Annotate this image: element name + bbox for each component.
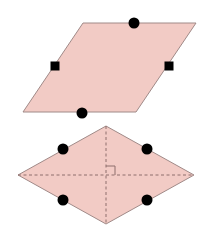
circle-marker-icon — [142, 144, 153, 155]
circle-marker-icon — [142, 195, 153, 206]
square-marker-icon — [165, 62, 174, 71]
circle-marker-icon — [129, 18, 140, 29]
circle-marker-icon — [58, 195, 69, 206]
square-marker-icon — [51, 62, 60, 71]
diagram-canvas — [0, 0, 211, 239]
parallelogram — [23, 18, 196, 119]
circle-marker-icon — [77, 108, 88, 119]
rhombus — [18, 126, 194, 224]
circle-marker-icon — [58, 144, 69, 155]
